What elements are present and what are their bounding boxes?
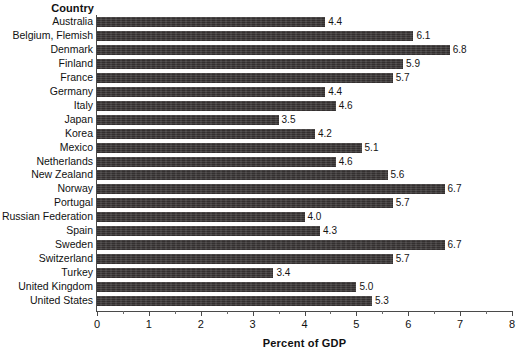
bar-category-label: Netherlands bbox=[0, 155, 93, 169]
bar-category-label: Turkey bbox=[0, 266, 93, 280]
bar-value-label: 5.6 bbox=[391, 168, 405, 182]
table-row: Turkey3.4 bbox=[0, 266, 523, 280]
bar-fill bbox=[97, 115, 279, 125]
bar-value-label: 4.6 bbox=[339, 155, 353, 169]
bar bbox=[97, 226, 320, 236]
value-axis-tick-label: 6 bbox=[405, 318, 411, 330]
value-axis-minor-tick bbox=[434, 311, 435, 314]
value-axis-minor-tick bbox=[175, 311, 176, 314]
table-row: Italy4.6 bbox=[0, 99, 523, 113]
table-row: United Kingdom5.0 bbox=[0, 280, 523, 294]
bar-value-label: 6.7 bbox=[448, 182, 462, 196]
table-row: France5.7 bbox=[0, 71, 523, 85]
bar bbox=[97, 59, 403, 69]
bar-fill bbox=[97, 73, 393, 83]
bar-category-label: United Kingdom bbox=[0, 280, 93, 294]
bar-value-label: 5.3 bbox=[375, 294, 389, 308]
value-axis-minor-tick bbox=[123, 311, 124, 314]
bar-category-label: Korea bbox=[0, 127, 93, 141]
bar-value-label: 6.8 bbox=[453, 43, 467, 57]
bar-fill bbox=[97, 17, 325, 27]
table-row: New Zealand5.6 bbox=[0, 168, 523, 182]
table-row: Australia4.4 bbox=[0, 15, 523, 29]
bar-value-label: 3.5 bbox=[282, 113, 296, 127]
table-row: Korea4.2 bbox=[0, 127, 523, 141]
category-axis-header: Country bbox=[0, 2, 94, 14]
table-row: Russian Federation4.0 bbox=[0, 210, 523, 224]
bar-category-label: Denmark bbox=[0, 43, 93, 57]
bar-fill bbox=[97, 157, 336, 167]
value-axis-tick-label: 8 bbox=[509, 318, 515, 330]
value-axis-minor-tick bbox=[227, 311, 228, 314]
value-axis-tick bbox=[97, 311, 98, 316]
bar-category-label: Russian Federation bbox=[0, 210, 93, 224]
value-axis-title: Percent of GDP bbox=[97, 337, 512, 349]
bar bbox=[97, 268, 273, 278]
bar bbox=[97, 296, 372, 306]
bar bbox=[97, 198, 393, 208]
bar-fill bbox=[97, 198, 393, 208]
bar-value-label: 5.7 bbox=[396, 252, 410, 266]
value-axis-minor-tick bbox=[486, 311, 487, 314]
value-axis-tick-label: 1 bbox=[146, 318, 152, 330]
bar bbox=[97, 240, 445, 250]
table-row: Portugal5.7 bbox=[0, 196, 523, 210]
value-axis-tick bbox=[460, 311, 461, 316]
table-row: Switzerland5.7 bbox=[0, 252, 523, 266]
bar-fill bbox=[97, 184, 445, 194]
value-axis-tick bbox=[253, 311, 254, 316]
value-axis-tick bbox=[201, 311, 202, 316]
bar bbox=[97, 170, 388, 180]
table-row: Denmark6.8 bbox=[0, 43, 523, 57]
bar-fill bbox=[97, 268, 273, 278]
table-row: Mexico5.1 bbox=[0, 141, 523, 155]
bar-value-label: 6.7 bbox=[448, 238, 462, 252]
bar-value-label: 5.7 bbox=[396, 196, 410, 210]
bar-category-label: Japan bbox=[0, 113, 93, 127]
bar-value-label: 4.0 bbox=[308, 210, 322, 224]
bar bbox=[97, 282, 356, 292]
value-axis-tick-label: 5 bbox=[353, 318, 359, 330]
bar-value-label: 3.4 bbox=[276, 266, 290, 280]
value-axis-tick bbox=[305, 311, 306, 316]
bar-category-label: Belgium, Flemish bbox=[0, 29, 93, 43]
table-row: Germany4.4 bbox=[0, 85, 523, 99]
value-axis-tick-label: 2 bbox=[198, 318, 204, 330]
value-axis-tick bbox=[356, 311, 357, 316]
bar-category-label: Sweden bbox=[0, 238, 93, 252]
bar-category-label: New Zealand bbox=[0, 168, 93, 182]
bar-category-label: Norway bbox=[0, 182, 93, 196]
bar-value-label: 4.6 bbox=[339, 99, 353, 113]
value-axis-tick bbox=[149, 311, 150, 316]
bar bbox=[97, 87, 325, 97]
value-axis-tick-label: 3 bbox=[250, 318, 256, 330]
bar-value-label: 4.4 bbox=[328, 85, 342, 99]
bar-category-label: Australia bbox=[0, 15, 93, 29]
value-axis-tick bbox=[408, 311, 409, 316]
bar-category-label: Spain bbox=[0, 224, 93, 238]
value-axis-minor-tick bbox=[279, 311, 280, 314]
bar-fill bbox=[97, 143, 362, 153]
bar-fill bbox=[97, 254, 393, 264]
value-axis-tick-label: 4 bbox=[301, 318, 307, 330]
bar-fill bbox=[97, 226, 320, 236]
bar-value-label: 4.2 bbox=[318, 127, 332, 141]
bar-fill bbox=[97, 240, 445, 250]
bar-fill bbox=[97, 45, 450, 55]
table-row: Netherlands4.6 bbox=[0, 155, 523, 169]
bar-fill bbox=[97, 59, 403, 69]
bar-category-label: Germany bbox=[0, 85, 93, 99]
bar bbox=[97, 17, 325, 27]
value-axis-minor-tick bbox=[330, 311, 331, 314]
bar-value-label: 6.1 bbox=[416, 29, 430, 43]
bar bbox=[97, 254, 393, 264]
bar-fill bbox=[97, 170, 388, 180]
bar bbox=[97, 101, 336, 111]
table-row: Belgium, Flemish6.1 bbox=[0, 29, 523, 43]
bar bbox=[97, 212, 305, 222]
bar-fill bbox=[97, 282, 356, 292]
bar bbox=[97, 184, 445, 194]
bar-category-label: Mexico bbox=[0, 141, 93, 155]
bar-category-label: France bbox=[0, 71, 93, 85]
bar-fill bbox=[97, 31, 413, 41]
